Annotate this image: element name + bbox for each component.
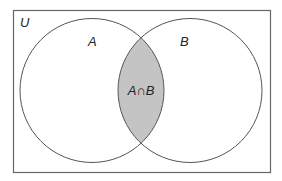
universe-label: U	[20, 15, 30, 30]
set-b-label: B	[180, 34, 189, 49]
venn-diagram: U A B A∩B	[0, 0, 282, 181]
set-a-label: A	[87, 34, 97, 49]
intersection-label: A∩B	[127, 83, 155, 98]
